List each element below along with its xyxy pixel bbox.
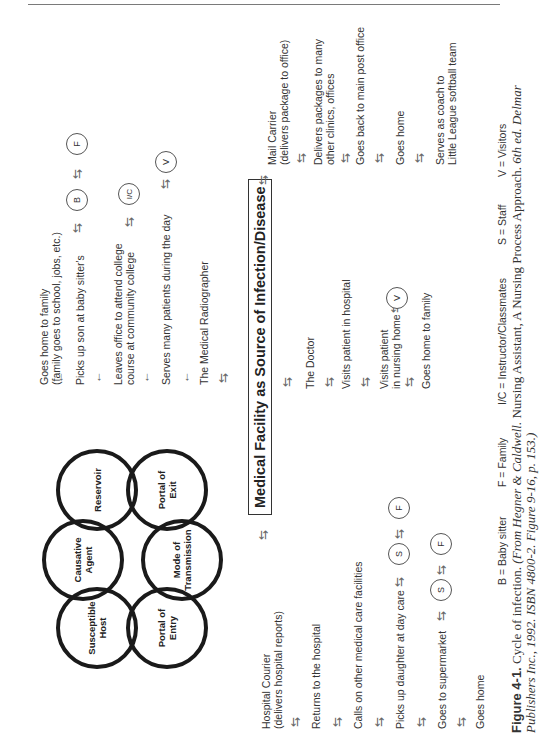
path-text: course at community college (124, 243, 136, 385)
circle-label: Entry (167, 609, 178, 648)
path-text: Serves many patients during the day (160, 215, 172, 385)
figure-caption: Figure 4-1. Cycle of infection. (From He… (510, 85, 538, 733)
path-text: Mail Carrier (266, 40, 278, 165)
path-item: Picks up son at baby sitter's (74, 255, 86, 385)
path-text: Calls on other medical care facilities (352, 562, 364, 730)
badge-baby-sitter: B (66, 189, 88, 211)
bidirectional-arrow-icon: ⇆ (436, 611, 446, 621)
arrow-up-icon: ← (54, 371, 64, 383)
bidirectional-arrow-icon: ⇆ (404, 377, 414, 387)
path-text: (delivers package to office) (278, 40, 290, 165)
path-text: Hospital Courier (260, 611, 272, 729)
bidirectional-arrow-icon: ⇆ (394, 577, 404, 587)
bidirectional-arrow-icon: ⇆ (456, 717, 466, 727)
path-item: Goes home (474, 675, 486, 729)
path-item: Goes home to family (family goes to scho… (38, 232, 62, 385)
path-item: Calls on other medical care facilities (352, 562, 364, 730)
badge-visitors: V (155, 151, 177, 173)
path-text: Goes home to family (420, 293, 432, 389)
bidirectional-arrow-icon: ⇆ (258, 530, 268, 540)
bidirectional-arrow-icon: ⇆ (374, 717, 384, 727)
path-item: Goes home to family (420, 293, 432, 389)
path-text: Serves as coach to (434, 42, 446, 165)
legend-item: B = Baby sitter (496, 516, 508, 585)
caption-line-2: Publishers Inc., 1992. ISBN 4800-2. Figu… (524, 85, 538, 733)
path-text: Little League softball team (446, 42, 458, 165)
path-text: Goes home (474, 675, 486, 729)
circle-label: Reservoir (92, 468, 103, 512)
bidirectional-arrow-icon: ⇆ (324, 377, 334, 387)
caption-edition: 6th ed. Delmar (509, 85, 524, 163)
bidirectional-arrow-icon: ⇆ (72, 169, 82, 179)
circle-label: Portal of (156, 609, 167, 648)
circle-label: Exit (167, 471, 178, 510)
bidirectional-arrow-icon: ⇆ (332, 717, 342, 727)
bidirectional-arrow-icon: ⇆ (218, 373, 228, 383)
path-item: Serves as coach to Little League softbal… (434, 42, 458, 165)
caption-book-title: Nursing Assistant, A Nursing Process App… (509, 167, 524, 419)
badge-instructor-classmates: I/C (118, 183, 140, 205)
path-item: The Doctor (304, 337, 316, 389)
bidirectional-arrow-icon: ⇆ (416, 717, 426, 727)
path-text: (delivers hospital reports) (272, 611, 284, 729)
bidirectional-arrow-icon: ⇆ (374, 153, 384, 163)
header-rule (28, 4, 500, 5)
path-text: The Medical Radiographer (198, 261, 210, 385)
path-item: Mail Carrier (delivers package to office… (266, 40, 290, 165)
path-text: Leaves office to attend college (112, 243, 124, 385)
path-text: Goes to supermarket (436, 631, 448, 729)
bidirectional-arrow-icon: ⇆ (258, 175, 268, 185)
legend-item: I/C = Instructor/Classmates (496, 278, 508, 405)
legend-item: S = Staff (496, 205, 508, 245)
bidirectional-arrow-icon: ⇆ (72, 223, 82, 233)
path-item: Hospital Courier (delivers hospital repo… (260, 611, 284, 729)
path-text: Picks up son at baby sitter's (74, 255, 86, 385)
path-item: The Medical Radiographer (198, 261, 210, 385)
circle-label: Portal of (156, 471, 167, 510)
circle-label: Mode of (171, 529, 182, 590)
bidirectional-arrow-icon: ⇆ (414, 153, 424, 163)
badge-family: F (430, 533, 452, 555)
circle-label: Agent (83, 538, 94, 583)
legend-item: F = Family (496, 438, 508, 487)
path-text: Visits patient in hospital (340, 279, 352, 389)
path-item: Goes back to main post office (354, 27, 366, 165)
path-text: Returns to the hospital (310, 624, 322, 729)
bidirectional-arrow-icon: ⇆ (360, 377, 370, 387)
path-text: in nursing home (390, 314, 402, 389)
circle-label: Susceptible (86, 601, 97, 654)
bidirectional-arrow-icon: ⇆ (160, 179, 170, 189)
bidirectional-arrow-icon: ⇆ (296, 153, 306, 163)
arrow-up-icon: ← (140, 371, 150, 383)
rotated-figure-page: Reservoir Portal of Exit Causative Agent… (0, 0, 547, 745)
arrow-up-icon: ← (180, 371, 190, 383)
bidirectional-arrow-icon: ⇆ (290, 717, 300, 727)
badge-family: F (66, 133, 88, 155)
bidirectional-arrow-icon: ⇆ (282, 377, 292, 387)
caption-publisher: Publishers Inc., 1992. ISBN 4800-2. Figu… (523, 433, 538, 733)
caption-line-1: Figure 4-1. Cycle of infection. (From He… (510, 85, 524, 733)
legend-item: V = Visitors (496, 124, 508, 177)
bidirectional-arrow-icon: ⇆ (394, 529, 404, 539)
path-item: Leaves office to attend college course a… (112, 243, 136, 385)
circle-portal-of-exit: Portal of Exit (126, 449, 208, 531)
caption-authors: (From Hegner & Caldwell. (509, 422, 524, 564)
path-text: Goes home (394, 111, 406, 165)
path-text: The Doctor (304, 337, 316, 389)
figure-number: Figure 4-1. (509, 667, 524, 733)
badge-visitors: V (386, 287, 408, 309)
path-text: other clinics, offices (324, 39, 336, 165)
path-text: Visits patient (378, 314, 390, 389)
badge-staff: S (388, 543, 410, 565)
circle-label: Causative (72, 538, 83, 583)
path-item: Returns to the hospital (310, 624, 322, 729)
bidirectional-arrow-icon: ⇆ (436, 565, 446, 575)
circle-portal-of-entry: Portal of Entry (126, 587, 208, 669)
path-item: Delivers packages to many other clinics,… (312, 39, 336, 165)
circle-label: Transmission (182, 529, 193, 590)
path-text: Delivers packages to many (312, 39, 324, 165)
path-item: Goes to supermarket (436, 631, 448, 729)
path-item: Serves many patients during the day (160, 215, 172, 385)
circle-label: Host (97, 601, 108, 654)
path-item: Visits patient in nursing home (378, 314, 402, 389)
